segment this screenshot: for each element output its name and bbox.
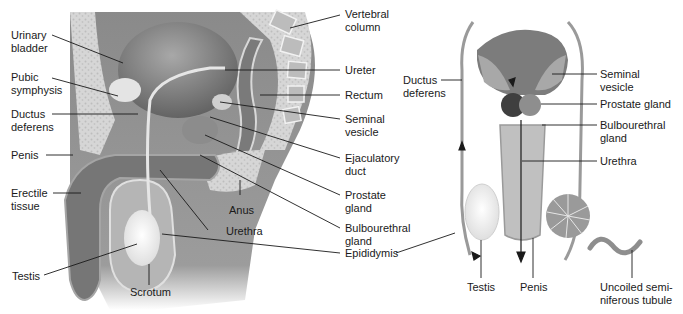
label-line-2: tissue xyxy=(11,200,48,213)
label-line-1: Anus xyxy=(229,204,254,217)
label-line-1: Penis xyxy=(520,281,548,294)
label-line-1: Ductus xyxy=(403,74,446,87)
label-line-1: Prostate xyxy=(345,189,386,202)
label-line-2: gland xyxy=(600,132,665,145)
label-seminal-vesicle: Seminal vesicle xyxy=(345,113,385,138)
label-line-1: Uncoiled semi- xyxy=(600,281,673,294)
label-right-seminal-vesicle: Seminal vesicle xyxy=(600,68,640,93)
label-rectum: Rectum xyxy=(345,89,383,102)
label-line-1: Penis xyxy=(11,149,39,162)
label-line-1: Prostate gland xyxy=(600,98,671,111)
label-line-2: symphysis xyxy=(11,84,62,97)
label-line-2: gland xyxy=(345,202,386,215)
label-line-1: Bulbourethral xyxy=(345,222,410,235)
label-epididymis: Epididymis xyxy=(345,247,398,260)
label-line-1: Urethra xyxy=(226,225,263,238)
label-erectile-tissue: Erectile tissue xyxy=(11,187,48,212)
label-urethra: Urethra xyxy=(226,225,263,238)
label-right-prostate-gland: Prostate gland xyxy=(600,98,671,111)
label-line-1: Bulbourethral xyxy=(600,119,665,132)
label-line-1: Urethra xyxy=(600,155,637,168)
label-bulbourethral-gland: Bulbourethral gland xyxy=(345,222,410,247)
label-ureter: Ureter xyxy=(345,64,376,77)
label-urinary-bladder: Urinary bladder xyxy=(11,29,48,54)
label-line-2: column xyxy=(345,21,389,34)
label-line-1: Seminal xyxy=(600,68,640,81)
label-line-1: Scrotum xyxy=(130,286,171,299)
label-line-1: Urinary xyxy=(11,29,48,42)
label-penis: Penis xyxy=(11,149,39,162)
label-pubic-symphysis: Pubic symphysis xyxy=(11,71,62,96)
label-line-1: Pubic xyxy=(11,71,62,84)
label-line-1: Erectile xyxy=(11,187,48,200)
label-line-2: gland xyxy=(345,235,410,248)
label-line-1: Vertebral xyxy=(345,8,389,21)
label-scrotum: Scrotum xyxy=(130,286,171,299)
label-ejaculatory-duct: Ejaculatory duct xyxy=(345,152,399,177)
label-line-1: Ejaculatory xyxy=(345,152,399,165)
label-right-uncoiled-seminiferous-tubule: Uncoiled semi- niferous tubule xyxy=(600,281,673,306)
label-anus: Anus xyxy=(229,204,254,217)
label-line-2: vesicle xyxy=(600,81,640,94)
label-line-2: bladder xyxy=(11,42,48,55)
label-line-1: Testis xyxy=(12,270,40,283)
label-prostate-gland: Prostate gland xyxy=(345,189,386,214)
label-line-2: deferens xyxy=(403,87,446,100)
label-line-1: Testis xyxy=(467,281,495,294)
label-testis: Testis xyxy=(12,270,40,283)
label-right-penis: Penis xyxy=(520,281,548,294)
label-ductus-deferens: Ductus deferens xyxy=(11,108,54,133)
label-line-1: Rectum xyxy=(345,89,383,102)
label-right-bulbourethral-gland: Bulbourethral gland xyxy=(600,119,665,144)
label-vertebral-column: Vertebral column xyxy=(345,8,389,33)
label-line-2: niferous tubule xyxy=(600,294,673,307)
reproductive-anatomy-artwork xyxy=(0,0,683,314)
label-right-urethra: Urethra xyxy=(600,155,637,168)
label-line-1: Seminal xyxy=(345,113,385,126)
label-line-2: deferens xyxy=(11,121,54,134)
label-line-1: Epididymis xyxy=(345,247,398,260)
label-line-1: Ductus xyxy=(11,108,54,121)
label-right-testis: Testis xyxy=(467,281,495,294)
label-line-2: vesicle xyxy=(345,126,385,139)
label-line-1: Ureter xyxy=(345,64,376,77)
label-right-ductus-deferens: Ductus deferens xyxy=(403,74,446,99)
label-line-2: duct xyxy=(345,165,399,178)
